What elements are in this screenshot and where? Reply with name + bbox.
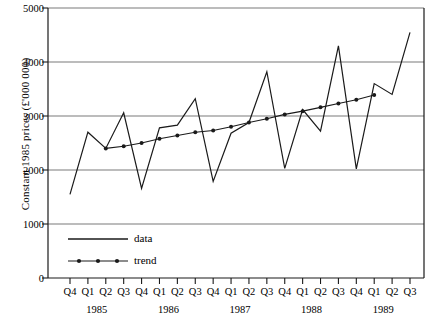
x-tick-label: Q3	[117, 286, 130, 297]
legend-marker-dot	[77, 259, 81, 263]
series-trend-line	[106, 95, 374, 148]
x-tick-label: Q4	[64, 286, 77, 297]
trend-data-point	[193, 130, 197, 134]
trend-data-point	[301, 109, 305, 113]
chart-container: Constant 1985 prices (£'000 000) 5000 40…	[0, 0, 435, 324]
trend-data-point	[247, 120, 251, 124]
x-tick-label: Q4	[135, 286, 148, 297]
x-tick-label: Q2	[99, 286, 112, 297]
trend-data-point	[265, 117, 269, 121]
x-axis-year-label: 1985	[86, 304, 107, 315]
x-tick-label: Q4	[278, 286, 291, 297]
trend-data-point	[104, 146, 108, 150]
x-axis-year-label: 1989	[373, 304, 394, 315]
trend-data-point	[283, 112, 287, 116]
trend-data-point	[354, 98, 358, 102]
plot-frame	[48, 8, 424, 278]
x-axis-year-label: 1986	[158, 304, 179, 315]
x-tick-label: Q4	[207, 286, 220, 297]
legend-marker-dot	[96, 259, 100, 263]
trend-data-point	[211, 129, 215, 133]
legend	[68, 239, 128, 263]
x-tick-label: Q1	[81, 286, 94, 297]
trend-data-point	[229, 125, 233, 129]
x-tick-label: Q1	[153, 286, 166, 297]
plot-svg	[0, 0, 435, 324]
trend-data-point	[157, 137, 161, 141]
trend-data-point	[140, 141, 144, 145]
legend-label-trend: trend	[134, 254, 157, 266]
legend-marker-dot	[115, 259, 119, 263]
x-tick-label: Q4	[350, 286, 363, 297]
x-tick-label: Q3	[189, 286, 202, 297]
x-tick-label: Q3	[260, 286, 273, 297]
x-tick-label: Q1	[225, 286, 238, 297]
x-tick-label: Q2	[171, 286, 184, 297]
x-axis-year-label: 1988	[301, 304, 322, 315]
trend-data-point	[175, 133, 179, 137]
trend-data-point	[122, 144, 126, 148]
x-tick-label: Q2	[386, 286, 399, 297]
x-tick-label: Q1	[368, 286, 381, 297]
x-tick-label: Q3	[404, 286, 417, 297]
x-tick-label: Q1	[296, 286, 309, 297]
x-tick-label: Q2	[314, 286, 327, 297]
y-axis-ticks	[42, 8, 48, 278]
x-tick-label: Q3	[332, 286, 345, 297]
x-tick-label: Q2	[243, 286, 256, 297]
trend-data-point	[319, 105, 323, 109]
trend-data-point	[336, 102, 340, 106]
trend-data-point	[372, 93, 376, 97]
x-axis-year-label: 1987	[230, 304, 251, 315]
x-axis-ticks	[70, 278, 410, 284]
legend-label-data: data	[134, 232, 152, 244]
